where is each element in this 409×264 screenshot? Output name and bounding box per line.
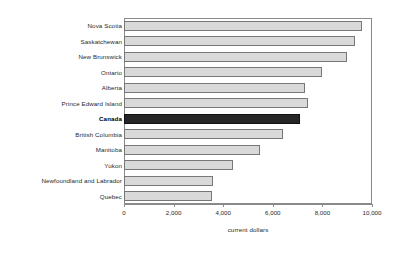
x-tick-label: 6,000: [265, 209, 280, 217]
category-label: Manitoba: [2, 146, 122, 153]
x-axis-title: current dollars: [124, 226, 372, 233]
bar-row: Nova Scotia: [0, 18, 409, 34]
x-tick: [322, 204, 323, 207]
category-label: Yukon: [2, 162, 122, 169]
bar: [124, 52, 347, 62]
bar-track: [124, 173, 372, 189]
category-label: British Columbia: [2, 131, 122, 138]
x-tick: [223, 204, 224, 207]
bar-row: New Brunswick: [0, 49, 409, 65]
bar-track: [124, 96, 372, 112]
category-label: Canada: [2, 115, 122, 122]
bar-row: Manitoba: [0, 142, 409, 158]
bar-track: [124, 65, 372, 81]
bar-row: Saskatchewan: [0, 34, 409, 50]
category-label: Alberta: [2, 84, 122, 91]
x-tick: [174, 204, 175, 207]
bar-row: Quebec: [0, 189, 409, 205]
bar-track: [124, 18, 372, 34]
bar-row: Prince Edward Island: [0, 96, 409, 112]
category-label: Saskatchewan: [2, 38, 122, 45]
bar: [124, 36, 355, 46]
bar-track: [124, 189, 372, 205]
bar-highlight: [124, 114, 300, 124]
bar-row: British Columbia: [0, 127, 409, 143]
category-label: Nova Scotia: [2, 22, 122, 29]
category-label: Newfoundland and Labrador: [2, 177, 122, 184]
bar: [124, 145, 260, 155]
bar: [124, 129, 283, 139]
x-tick: [124, 204, 125, 207]
bar-rows: Nova ScotiaSaskatchewanNew BrunswickOnta…: [0, 18, 409, 204]
category-label: New Brunswick: [2, 53, 122, 60]
bar: [124, 98, 308, 108]
bar-track: [124, 142, 372, 158]
category-label: Quebec: [2, 193, 122, 200]
x-tick-label: 2,000: [166, 209, 181, 217]
bar-row: Newfoundland and Labrador: [0, 173, 409, 189]
bar: [124, 67, 322, 77]
bar-track: [124, 111, 372, 127]
bar-row: Alberta: [0, 80, 409, 96]
bar-row: Ontario: [0, 65, 409, 81]
x-tick-label: 4,000: [215, 209, 230, 217]
category-label: Ontario: [2, 69, 122, 76]
x-tick-label: 0: [122, 209, 125, 217]
x-axis-line: [124, 204, 372, 205]
bar-track: [124, 80, 372, 96]
bar-row: Yukon: [0, 158, 409, 174]
category-label: Prince Edward Island: [2, 100, 122, 107]
bar-track: [124, 127, 372, 143]
bar-chart: Nova ScotiaSaskatchewanNew BrunswickOnta…: [0, 0, 409, 264]
x-tick-label: 10,000: [363, 209, 382, 217]
bar: [124, 160, 233, 170]
bar-track: [124, 49, 372, 65]
bar: [124, 83, 305, 93]
bar: [124, 21, 362, 31]
bar: [124, 191, 212, 201]
bar-track: [124, 158, 372, 174]
bar: [124, 176, 213, 186]
x-tick: [273, 204, 274, 207]
bar-track: [124, 34, 372, 50]
bar-row: Canada: [0, 111, 409, 127]
x-tick: [372, 204, 373, 207]
x-tick-label: 8,000: [315, 209, 330, 217]
